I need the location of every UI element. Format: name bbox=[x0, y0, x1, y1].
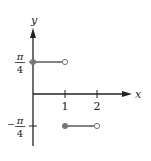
y-axis-label: y bbox=[30, 14, 38, 27]
y-tick-denominator: 4 bbox=[17, 128, 23, 139]
x-axis-label: x bbox=[135, 88, 142, 101]
segment-1-end-point bbox=[62, 59, 67, 64]
segment-2-start-point bbox=[62, 123, 67, 128]
y-tick-denominator: 4 bbox=[17, 64, 23, 75]
x-tick-label: 1 bbox=[62, 100, 69, 113]
y-axis-arrow bbox=[30, 28, 36, 38]
segment-1-start-point bbox=[30, 59, 35, 64]
axes bbox=[30, 28, 132, 146]
y-tick-numerator: π bbox=[16, 51, 24, 62]
x-axis-arrow bbox=[122, 91, 132, 97]
y-tick-sign: − bbox=[7, 119, 15, 129]
segment-2-end-point bbox=[94, 123, 99, 128]
x-tick-label: 2 bbox=[94, 100, 101, 113]
y-tick-numerator: π bbox=[16, 115, 24, 126]
step-function-plot: 12π4−π4 y x bbox=[0, 0, 151, 161]
